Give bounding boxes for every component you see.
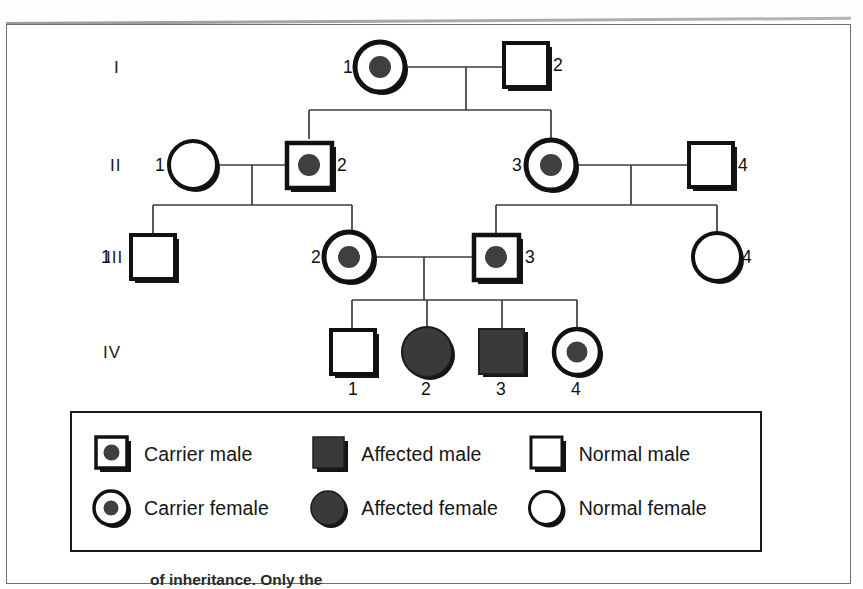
- legend-label-normal-male: Normal male: [579, 443, 691, 466]
- legend-label-carrier-female: Carrier female: [144, 497, 269, 520]
- id-label-II-4: 4: [738, 155, 748, 176]
- individual-III-2: [324, 232, 377, 285]
- individual-I-2: [504, 43, 552, 91]
- generation-label-II: II: [110, 156, 121, 176]
- id-label-IV-3: 3: [496, 379, 506, 400]
- individual-II-3: [526, 140, 579, 193]
- legend-item-normal-male: Normal male: [527, 427, 744, 482]
- id-label-III-1: 1: [101, 247, 111, 268]
- figure-caption: of inheritance. Only the: [150, 572, 770, 589]
- individual-III-1: [131, 235, 179, 283]
- normal-female-symbol-icon: [527, 488, 569, 530]
- id-label-II-2: 2: [337, 155, 347, 176]
- id-label-III-4: 4: [742, 247, 752, 268]
- individual-IV-4: [554, 329, 603, 378]
- legend-label-carrier-male: Carrier male: [144, 443, 252, 466]
- legend-label-affected-male: Affected male: [361, 443, 481, 466]
- legend-item-carrier-female: Carrier female: [92, 482, 309, 537]
- legend-item-affected-female: Affected female: [309, 482, 526, 537]
- legend-label-normal-female: Normal female: [579, 497, 707, 520]
- id-label-IV-1: 1: [348, 379, 358, 400]
- generation-label-I: I: [114, 58, 120, 78]
- individual-I-1: [355, 42, 408, 95]
- generation-label-IV: IV: [103, 343, 121, 363]
- id-label-IV-2: 2: [421, 379, 431, 400]
- affected-female-symbol-icon: [309, 488, 351, 530]
- carrier-male-symbol-icon: [92, 433, 134, 475]
- legend-item-normal-female: Normal female: [527, 482, 744, 537]
- id-label-I-1: 1: [343, 57, 353, 78]
- normal-male-symbol-icon: [527, 433, 569, 475]
- id-label-I-2: 2: [553, 55, 563, 76]
- individual-II-4: [689, 143, 737, 191]
- figure-page: I II III IV 1 2 1 2 3 4 1 2 3 4 1 2 3 4: [0, 0, 863, 589]
- id-label-III-2: 2: [311, 247, 321, 268]
- pedigree-chart: I II III IV 1 2 1 2 3 4 1 2 3 4 1 2 3 4: [0, 0, 863, 589]
- individual-III-3: [474, 235, 523, 284]
- legend-item-carrier-male: Carrier male: [92, 427, 309, 482]
- legend-label-affected-female: Affected female: [361, 497, 498, 520]
- individual-IV-1: [331, 330, 379, 378]
- id-label-III-3: 3: [525, 247, 535, 268]
- individual-II-2: [287, 143, 336, 192]
- figure-caption-text: of inheritance. Only the: [150, 572, 770, 589]
- id-label-II-3: 3: [512, 155, 522, 176]
- individual-II-1: [169, 141, 220, 192]
- carrier-female-symbol-icon: [92, 488, 134, 530]
- id-label-IV-4: 4: [571, 379, 581, 400]
- individual-III-4: [693, 233, 744, 284]
- legend-item-affected-male: Affected male: [309, 427, 526, 482]
- legend-box: Carrier male Affected male: [70, 411, 762, 552]
- individual-IV-3: [479, 329, 528, 377]
- id-label-II-1: 1: [155, 155, 165, 176]
- affected-male-symbol-icon: [309, 433, 351, 475]
- legend-grid: Carrier male Affected male: [72, 413, 760, 550]
- individual-IV-2: [402, 327, 455, 380]
